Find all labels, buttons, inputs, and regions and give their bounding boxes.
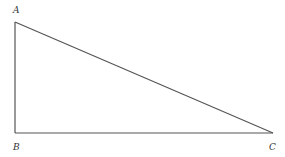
side-ac [15,22,273,133]
label-b: B [12,142,20,152]
triangle-diagram: A B C [0,0,285,157]
label-c: C [269,142,276,152]
label-a: A [12,5,20,15]
